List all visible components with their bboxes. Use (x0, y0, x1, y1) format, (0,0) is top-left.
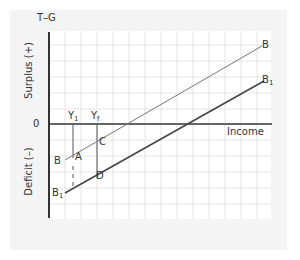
t-minus-g-label: T–G (37, 13, 56, 23)
surplus-label: Surplus (+) (23, 41, 34, 101)
point-a-label: A (75, 152, 82, 162)
b-right-label: B (262, 40, 269, 50)
grid-area (49, 31, 271, 219)
point-c-label: C (99, 137, 106, 147)
point-d-label: D (96, 171, 104, 181)
deficit-label: Deficit (–) (23, 142, 34, 202)
zero-label: 0 (33, 119, 39, 129)
y1-label: Y1 (68, 111, 79, 123)
yf-label: Yf (91, 111, 100, 123)
b1-left-label: B1 (52, 188, 63, 200)
b1-right-label: B1 (262, 75, 273, 87)
b-left-label: B (54, 156, 61, 166)
income-label: Income (227, 127, 264, 137)
